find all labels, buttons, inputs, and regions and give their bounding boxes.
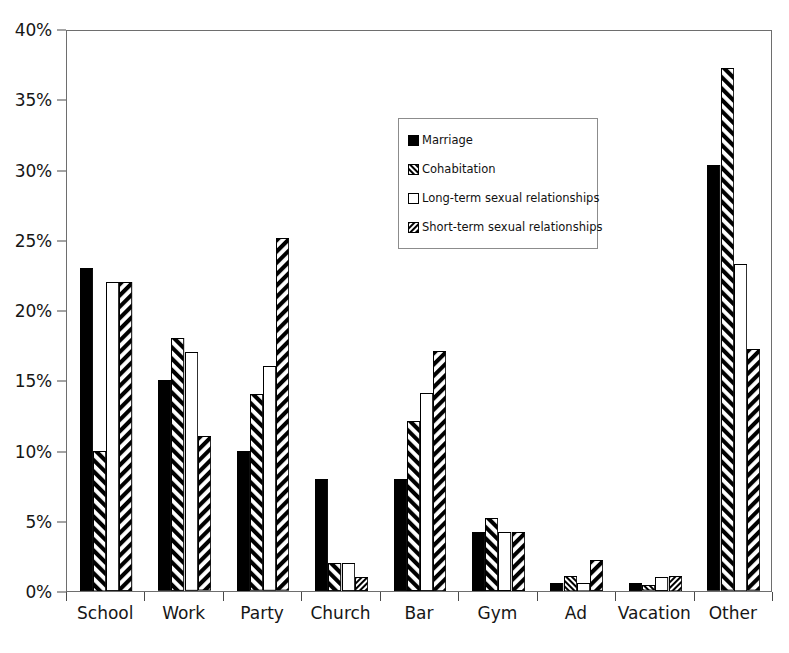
legend-item: Short-term sexual relationships (408, 216, 589, 238)
bar (158, 380, 171, 591)
y-tick-mark (57, 521, 66, 522)
bar (577, 583, 590, 591)
bar (119, 282, 132, 591)
bar (342, 563, 355, 591)
bar (185, 352, 198, 591)
bar (106, 282, 119, 591)
x-tick-label-work: Work (162, 603, 205, 623)
bar (590, 560, 603, 591)
legend-label: Short-term sexual relationships (422, 221, 602, 233)
bar (550, 583, 563, 591)
y-tick-mark (57, 311, 66, 312)
bar (407, 421, 420, 591)
bar (328, 563, 341, 591)
bar (171, 338, 184, 591)
y-tick-mark (57, 592, 66, 593)
x-tick-label-ad: Ad (565, 603, 587, 623)
y-axis: 0%5%10%15%20%25%30%35%40% (0, 0, 66, 653)
legend-label: Cohabitation (422, 163, 495, 175)
bar (734, 264, 747, 591)
x-tick-label-gym: Gym (478, 603, 518, 623)
legend-item: Long-term sexual relationships (408, 187, 589, 209)
x-tick-mark (144, 592, 145, 601)
bar (472, 532, 485, 591)
bar-group (707, 31, 760, 591)
bar-group (80, 31, 133, 591)
x-tick-mark (380, 592, 381, 601)
y-tick-label: 35% (15, 90, 52, 110)
y-tick-label: 10% (15, 442, 52, 462)
y-tick-mark (57, 30, 66, 31)
bar (198, 436, 211, 591)
x-tick-label-church: Church (310, 603, 370, 623)
bar (80, 268, 93, 591)
legend-item: Marriage (408, 129, 589, 151)
x-tick-mark (223, 592, 224, 601)
x-tick-mark (301, 592, 302, 601)
x-tick-mark (615, 592, 616, 601)
bars-layer (67, 31, 771, 591)
y-tick-label: 25% (15, 231, 52, 251)
bar (93, 451, 106, 592)
bar-group (472, 31, 525, 591)
bar-group (237, 31, 290, 591)
x-tick-mark (66, 592, 67, 601)
bar (315, 479, 328, 591)
x-tick-label-bar: Bar (404, 603, 433, 623)
x-axis: SchoolWorkPartyChurchBarGymAdVacationOth… (66, 601, 772, 641)
bar (564, 576, 577, 591)
bar (263, 366, 276, 591)
x-tick-label-other: Other (709, 603, 757, 623)
bar (642, 585, 655, 591)
bar-group (629, 31, 682, 591)
legend-label: Long-term sexual relationships (422, 192, 599, 204)
y-tick-label: 5% (25, 512, 52, 532)
y-tick-label: 20% (15, 301, 52, 321)
y-tick-label: 40% (15, 20, 52, 40)
bar (707, 165, 720, 591)
x-tick-label-party: Party (240, 603, 284, 623)
bar (512, 532, 525, 591)
bar-chart: 0%5%10%15%20%25%30%35%40% SchoolWorkPart… (0, 0, 789, 653)
bar-group (315, 31, 368, 591)
y-tick-mark (57, 100, 66, 101)
hatch-forward-swatch-icon (408, 164, 419, 175)
legend: MarriageCohabitationLong-term sexual rel… (398, 118, 598, 249)
bar (276, 238, 289, 591)
bar (721, 68, 734, 591)
bar (394, 479, 407, 591)
bar-group (158, 31, 211, 591)
bar (669, 576, 682, 591)
bar (485, 518, 498, 591)
x-tick-label-vacation: Vacation (618, 603, 691, 623)
x-tick-mark (537, 592, 538, 601)
legend-label: Marriage (422, 134, 473, 146)
bar (747, 349, 760, 591)
y-tick-label: 30% (15, 161, 52, 181)
bar-group (394, 31, 447, 591)
bar (433, 351, 446, 591)
y-tick-label: 0% (25, 582, 52, 602)
x-tick-mark (772, 592, 773, 601)
y-tick-mark (57, 240, 66, 241)
x-axis-ticks (66, 592, 772, 601)
plot-area (66, 30, 772, 592)
solid-black-swatch-icon (408, 135, 419, 146)
y-tick-label: 15% (15, 371, 52, 391)
bar (355, 577, 368, 591)
bar (498, 532, 511, 591)
y-tick-mark (57, 451, 66, 452)
bar (655, 577, 668, 591)
hatch-backward-swatch-icon (408, 222, 419, 233)
bar-group (550, 31, 603, 591)
y-tick-mark (57, 170, 66, 171)
empty-white-swatch-icon (408, 193, 419, 204)
legend-item: Cohabitation (408, 158, 589, 180)
bar (629, 583, 642, 591)
bar (420, 393, 433, 591)
x-tick-label-school: School (77, 603, 133, 623)
x-tick-mark (458, 592, 459, 601)
x-tick-mark (694, 592, 695, 601)
y-tick-mark (57, 381, 66, 382)
bar (250, 394, 263, 591)
